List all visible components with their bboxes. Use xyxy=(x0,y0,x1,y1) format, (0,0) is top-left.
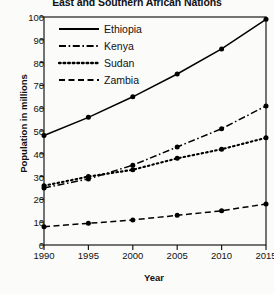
legend-line-sample xyxy=(58,24,100,34)
data-point xyxy=(86,115,91,120)
data-point xyxy=(42,133,47,138)
legend-line-sample xyxy=(58,41,100,51)
data-point xyxy=(130,94,135,99)
legend-item-zambia: Zambia xyxy=(58,71,142,88)
data-point xyxy=(42,224,47,229)
legend-line-sample xyxy=(58,75,100,85)
series-zambia xyxy=(42,201,269,229)
chart-legend: EthiopiaKenyaSudanZambia xyxy=(58,20,142,88)
legend-label: Ethiopia xyxy=(104,23,142,35)
data-point xyxy=(264,135,269,140)
data-point xyxy=(42,183,47,188)
data-point xyxy=(130,217,135,222)
data-point xyxy=(219,46,224,51)
series-line xyxy=(44,138,266,186)
data-point xyxy=(264,201,269,206)
data-point xyxy=(130,167,135,172)
data-point xyxy=(175,72,180,77)
data-point xyxy=(175,156,180,161)
legend-item-sudan: Sudan xyxy=(58,54,142,71)
legend-item-ethiopia: Ethiopia xyxy=(58,20,142,37)
data-point xyxy=(264,103,269,108)
legend-label: Kenya xyxy=(104,40,134,52)
data-point xyxy=(219,208,224,213)
data-point xyxy=(175,213,180,218)
data-point xyxy=(219,147,224,152)
legend-item-kenya: Kenya xyxy=(58,37,142,54)
data-point xyxy=(86,221,91,226)
data-point xyxy=(219,126,224,131)
series-sudan xyxy=(42,135,269,188)
line-chart: East and Southern African Nations Popula… xyxy=(0,0,274,294)
data-point xyxy=(130,163,135,168)
legend-label: Zambia xyxy=(104,74,139,86)
series-line xyxy=(44,204,266,227)
legend-label: Sudan xyxy=(104,57,134,69)
data-point xyxy=(264,17,269,22)
x-tick-marks xyxy=(44,245,266,250)
data-point xyxy=(86,174,91,179)
data-point xyxy=(175,144,180,149)
legend-line-sample xyxy=(58,58,100,68)
